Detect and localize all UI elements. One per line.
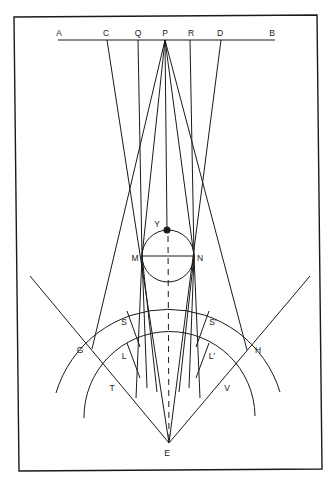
line-PG — [92, 40, 165, 349]
line-DNE — [169, 40, 221, 443]
label-R: R — [188, 28, 194, 38]
line-QM — [138, 40, 142, 256]
line-CME — [107, 40, 169, 443]
label-L: L — [122, 351, 127, 361]
label-P: P — [162, 28, 168, 38]
label-D: D — [217, 28, 223, 38]
dashed-line-YE — [168, 236, 169, 443]
label-H: H — [255, 345, 261, 355]
label-G: G — [77, 345, 84, 355]
tick-S-prime — [196, 311, 209, 347]
label-V: V — [224, 383, 230, 393]
label-Y: Y — [154, 219, 160, 229]
line-PN — [165, 40, 194, 256]
inner-arc — [84, 332, 255, 418]
label-M: M — [131, 253, 138, 263]
label-S-prime: S′ — [209, 317, 217, 327]
diagram: A C Q P R D B Y M N S S′ L L′ G H T V E — [0, 0, 333, 485]
label-S: S — [121, 317, 127, 327]
label-E: E — [164, 448, 170, 458]
point-Y — [164, 227, 171, 234]
label-A: A — [56, 28, 62, 38]
label-N: N — [197, 253, 203, 263]
label-B: B — [269, 28, 275, 38]
line-PH — [165, 40, 247, 350]
frame-border — [14, 15, 322, 471]
label-T: T — [109, 383, 114, 393]
line-E-left — [30, 276, 169, 443]
line-PY — [165, 40, 167, 229]
label-Q: Q — [135, 28, 142, 38]
label-C: C — [103, 28, 109, 38]
label-L-prime: L′ — [209, 351, 216, 361]
